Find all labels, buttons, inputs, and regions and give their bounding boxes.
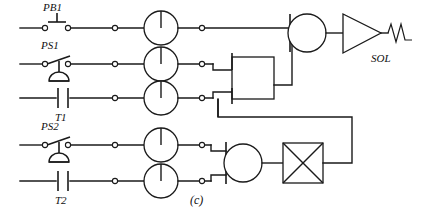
ps1-diaphragm-dome — [49, 72, 69, 81]
terminal-row1-d[interactable] — [199, 25, 204, 30]
terminal-row3-d[interactable] — [199, 95, 204, 100]
memory-element-upper — [288, 14, 326, 52]
label-sol: SOL — [371, 52, 391, 64]
terminal-row2-d[interactable] — [199, 61, 204, 66]
figure-caption: (c) — [190, 193, 203, 207]
circuit-schematic-svg: SOL — [0, 0, 425, 217]
terminal-row5-d[interactable] — [199, 178, 204, 183]
row-t1 — [20, 81, 232, 115]
label-t2: T2 — [55, 194, 67, 206]
wire-row3-into-logic-box — [213, 92, 232, 98]
row-ps1 — [20, 47, 232, 81]
wire-row5-into-memory-lower — [211, 175, 226, 181]
terminal-row4-d[interactable] — [199, 142, 204, 147]
terminal-row4-b[interactable] — [65, 142, 70, 147]
ps2-diaphragm-dome — [49, 153, 69, 162]
terminal-row3-c[interactable] — [112, 95, 117, 100]
amplifier-triangle — [343, 14, 381, 53]
output-stage-lower — [218, 99, 352, 184]
output-stage-upper: SOL — [288, 14, 412, 64]
circuit-diagram: SOL — [0, 0, 425, 217]
terminal-row2-c[interactable] — [112, 61, 117, 66]
row-ps2 — [20, 128, 226, 162]
or-logic-box-upper — [232, 57, 274, 99]
label-ps1: PS1 — [40, 39, 59, 51]
solenoid-coil — [388, 24, 412, 42]
terminal-row4-c[interactable] — [112, 142, 117, 147]
label-pb1: PB1 — [42, 1, 62, 13]
or-logic-box-upper-group — [232, 44, 292, 104]
wire-row4-into-memory-lower — [211, 145, 226, 151]
label-ps2: PS2 — [40, 120, 59, 132]
terminal-row2-a[interactable] — [42, 61, 47, 66]
wire-row2-into-logic-box — [213, 64, 232, 70]
memory-element-lower — [224, 144, 262, 182]
terminal-row5-c[interactable] — [112, 178, 117, 183]
terminal-row1-c[interactable] — [112, 25, 117, 30]
terminal-row2-b[interactable] — [65, 61, 70, 66]
terminal-row1-b[interactable] — [65, 25, 70, 30]
row-pb1 — [20, 11, 290, 45]
terminal-row1-a[interactable] — [42, 25, 47, 30]
terminal-row4-a[interactable] — [42, 142, 47, 147]
